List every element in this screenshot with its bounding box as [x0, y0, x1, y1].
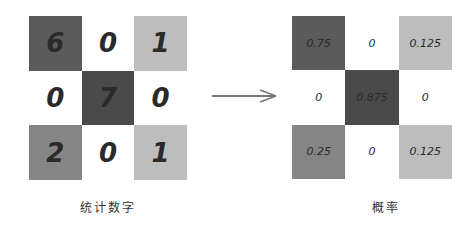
count-grid: 601070201 [29, 16, 187, 180]
probability-cell: 0 [292, 70, 345, 124]
probability-cell: 0.125 [399, 125, 452, 179]
count-cell: 2 [29, 125, 82, 180]
count-cell: 7 [82, 71, 135, 126]
probability-cell: 0.75 [292, 16, 345, 70]
probability-cell: 0.125 [399, 16, 452, 70]
count-cell: 0 [29, 71, 82, 126]
probability-cell: 0 [399, 70, 452, 124]
count-grid-caption: 统计数字 [80, 198, 136, 215]
probability-grid: 0.7500.12500.87500.2500.125 [292, 16, 452, 179]
probability-cell: 0 [345, 125, 398, 179]
right-arrow-icon [210, 86, 280, 106]
count-cell: 6 [29, 16, 82, 71]
count-cell: 0 [82, 125, 135, 180]
count-cell: 1 [134, 125, 187, 180]
probability-cell: 0.25 [292, 125, 345, 179]
probability-cell: 0 [345, 16, 398, 70]
count-cell: 0 [134, 71, 187, 126]
probability-grid-caption: 概率 [372, 198, 400, 215]
count-cell: 1 [134, 16, 187, 71]
probability-cell: 0.875 [345, 70, 398, 124]
count-cell: 0 [82, 16, 135, 71]
